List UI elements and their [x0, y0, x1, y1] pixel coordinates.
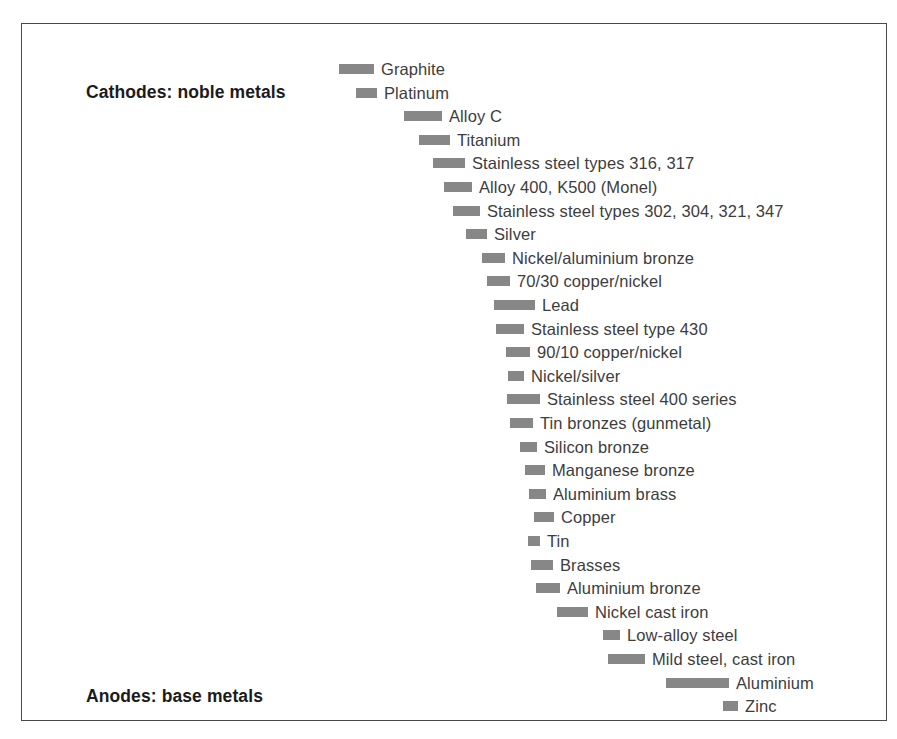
anodes-heading: Anodes: base metals	[86, 686, 263, 707]
series-label: 70/30 copper/nickel	[517, 270, 662, 292]
series-label: Silver	[494, 223, 536, 245]
series-bar	[510, 418, 533, 428]
series-bar	[487, 276, 510, 286]
series-label: Lead	[542, 294, 579, 316]
series-row: Manganese bronze	[22, 459, 888, 481]
series-label: Aluminium	[736, 672, 814, 694]
series-label: Aluminium brass	[553, 483, 676, 505]
series-bar	[536, 583, 560, 593]
series-bar	[531, 560, 553, 570]
series-row: Stainless steel types 302, 304, 321, 347	[22, 200, 888, 222]
series-row: 90/10 copper/nickel	[22, 341, 888, 363]
series-bar	[419, 135, 450, 145]
series-label: Brasses	[560, 554, 620, 576]
series-bar	[494, 300, 535, 310]
series-bar	[608, 654, 645, 664]
series-bar	[508, 371, 524, 381]
series-label: Aluminium bronze	[567, 577, 701, 599]
series-bar	[528, 536, 540, 546]
series-row: Alloy C	[22, 105, 888, 127]
galvanic-series-figure: Cathodes: noble metals GraphitePlatinumA…	[0, 0, 897, 739]
series-bar	[525, 465, 545, 475]
series-bar	[356, 88, 377, 98]
series-bar	[482, 253, 505, 263]
series-row: Titanium	[22, 129, 888, 151]
series-bar	[339, 64, 374, 74]
series-bar	[453, 206, 480, 216]
series-label: Tin bronzes (gunmetal)	[540, 412, 711, 434]
series-label: Manganese bronze	[552, 459, 695, 481]
series-label: Zinc	[745, 695, 777, 717]
series-label: Graphite	[381, 58, 445, 80]
series-row: Silver	[22, 223, 888, 245]
series-bar	[444, 182, 472, 192]
series-row: Tin	[22, 530, 888, 552]
series-label: Platinum	[384, 82, 449, 104]
series-label: Low-alloy steel	[627, 624, 738, 646]
series-bar	[666, 678, 729, 688]
series-bar	[433, 158, 465, 168]
series-row: Graphite	[22, 58, 888, 80]
series-bar	[520, 442, 537, 452]
series-label: Copper	[561, 506, 616, 528]
series-row: Lead	[22, 294, 888, 316]
series-label: Stainless steel type 430	[531, 318, 708, 340]
series-label: Nickel/silver	[531, 365, 620, 387]
series-row: Mild steel, cast iron	[22, 648, 888, 670]
series-row: Tin bronzes (gunmetal)	[22, 412, 888, 434]
series-row: Platinum	[22, 82, 888, 104]
series-bar	[466, 229, 487, 239]
series-bar	[506, 347, 530, 357]
series-label: Stainless steel types 302, 304, 321, 347	[487, 200, 784, 222]
chart-frame: Cathodes: noble metals GraphitePlatinumA…	[21, 23, 887, 721]
series-row: Copper	[22, 506, 888, 528]
series-row-list: GraphitePlatinumAlloy CTitaniumStainless…	[22, 24, 888, 722]
series-label: Tin	[547, 530, 570, 552]
series-row: Low-alloy steel	[22, 624, 888, 646]
series-row: Aluminium bronze	[22, 577, 888, 599]
series-bar	[529, 489, 546, 499]
series-row: Stainless steel 400 series	[22, 388, 888, 410]
series-bar	[507, 394, 540, 404]
series-label: Alloy 400, K500 (Monel)	[479, 176, 657, 198]
series-row: Aluminium brass	[22, 483, 888, 505]
series-label: Stainless steel 400 series	[547, 388, 737, 410]
series-row: Nickel/aluminium bronze	[22, 247, 888, 269]
series-label: Titanium	[457, 129, 520, 151]
series-row: Nickel/silver	[22, 365, 888, 387]
series-bar	[557, 607, 588, 617]
series-label: Alloy C	[449, 105, 502, 127]
series-row: Silicon bronze	[22, 436, 888, 458]
series-label: Stainless steel types 316, 317	[472, 152, 694, 174]
series-bar	[603, 630, 620, 640]
series-label: Nickel/aluminium bronze	[512, 247, 694, 269]
series-label: Mild steel, cast iron	[652, 648, 795, 670]
series-row: 70/30 copper/nickel	[22, 270, 888, 292]
series-label: 90/10 copper/nickel	[537, 341, 682, 363]
series-row: Alloy 400, K500 (Monel)	[22, 176, 888, 198]
series-row: Nickel cast iron	[22, 601, 888, 623]
series-label: Nickel cast iron	[595, 601, 708, 623]
series-row: Brasses	[22, 554, 888, 576]
series-bar	[534, 512, 554, 522]
series-label: Silicon bronze	[544, 436, 649, 458]
series-row: Stainless steel types 316, 317	[22, 152, 888, 174]
series-row: Stainless steel type 430	[22, 318, 888, 340]
series-bar	[496, 324, 524, 334]
series-bar	[723, 701, 738, 711]
series-bar	[404, 111, 442, 121]
